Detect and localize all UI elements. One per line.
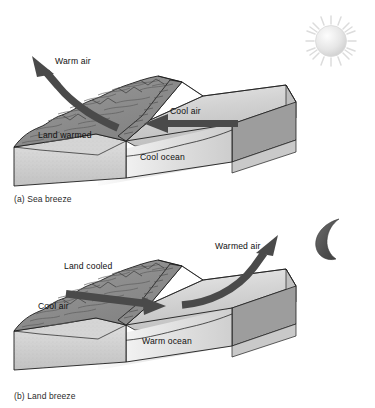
label-cool-air: Cool air (170, 107, 201, 116)
label-cool-ocean: Cool ocean (140, 153, 185, 162)
label-warm-air: Warm air (55, 57, 91, 66)
label-warmed-air: Warmed air (215, 242, 261, 251)
label-land-cooled: Land cooled (64, 262, 112, 271)
sea-land-breeze-figure: (a) Sea breeze Warm air Land warmed Cool… (0, 0, 375, 408)
label-cool-air: Cool air (38, 302, 69, 311)
label-warm-ocean: Warm ocean (142, 337, 192, 346)
label-land-warmed: Land warmed (38, 131, 92, 140)
panel-sea-breeze: (a) Sea breeze Warm air Land warmed Cool… (0, 0, 375, 210)
moon-icon (308, 215, 354, 263)
sun-icon (304, 14, 358, 68)
warm-air-arrowhead (32, 56, 54, 77)
panel-land-breeze: (b) Land breeze Land cooled Cool air War… (0, 205, 375, 408)
caption-land-breeze: (b) Land breeze (14, 391, 76, 401)
caption-sea-breeze: (a) Sea breeze (14, 194, 72, 204)
